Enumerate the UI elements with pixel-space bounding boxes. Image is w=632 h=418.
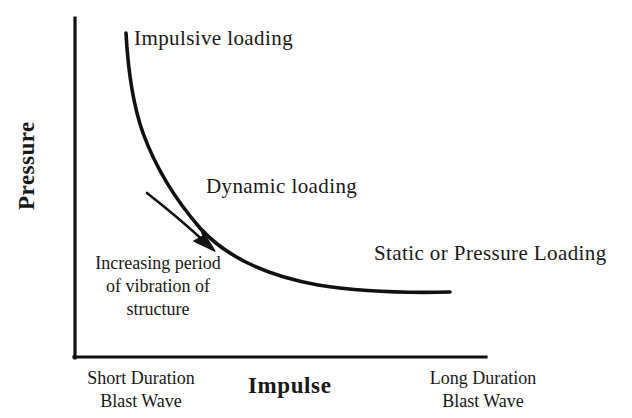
increasing-period-line-2: of vibration of (78, 275, 238, 298)
chart-curve-layer (0, 0, 632, 418)
annotation-increasing-period-of-vibration: Increasing period of vibration of struct… (78, 252, 238, 321)
pressure-impulse-diagram: Impulsive loading Dynamic loading Static… (0, 0, 632, 418)
annotation-impulsive-loading: Impulsive loading (134, 26, 293, 51)
short-duration-line-1: Short Duration (70, 367, 212, 390)
increasing-period-line-3: structure (78, 298, 238, 321)
increasing-period-line-1: Increasing period (78, 252, 238, 275)
annotation-static-or-pressure-loading: Static or Pressure Loading (374, 241, 607, 266)
x-axis-right-endpoint-label: Long Duration Blast Wave (412, 367, 554, 413)
x-axis-left-endpoint-label: Short Duration Blast Wave (70, 367, 212, 413)
long-duration-line-1: Long Duration (412, 367, 554, 390)
annotation-dynamic-loading: Dynamic loading (206, 174, 357, 199)
short-duration-line-2: Blast Wave (70, 390, 212, 413)
long-duration-line-2: Blast Wave (412, 390, 554, 413)
x-axis-label-impulse: Impulse (248, 372, 331, 399)
y-axis-label-pressure: Pressure (13, 101, 40, 231)
